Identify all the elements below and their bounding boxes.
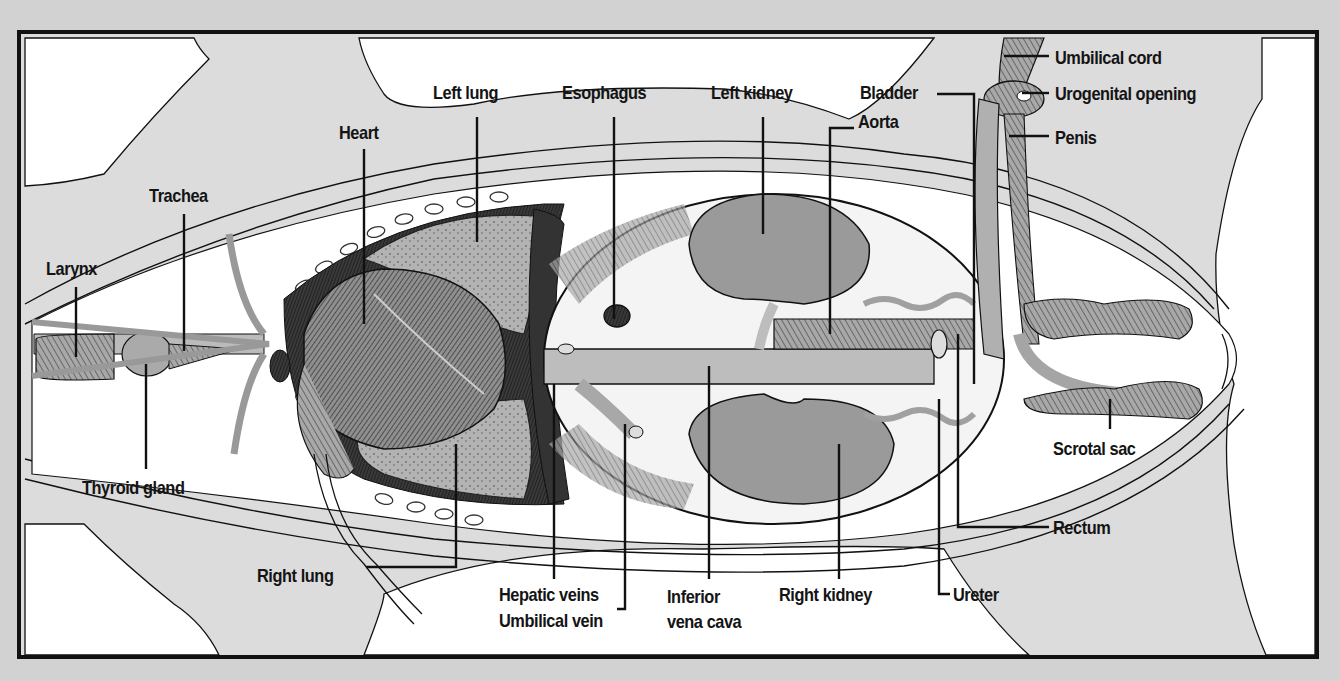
diagram-frame: Larynx Trachea Thyroid gland Heart Left … [17, 30, 1319, 659]
white-area-top-left [25, 38, 209, 186]
fetal-pig-illustration [21, 34, 1315, 655]
scrotal-sac-upper [1024, 299, 1192, 339]
label-bladder: Bladder [860, 82, 918, 104]
heart [304, 269, 505, 449]
label-hepatic-veins: Hepatic veins [499, 584, 599, 606]
label-penis: Penis [1055, 127, 1096, 149]
label-rectum: Rectum [1053, 517, 1110, 539]
esophagus [604, 305, 630, 327]
label-esophagus: Esophagus [562, 82, 646, 104]
label-scrotal-sac: Scrotal sac [1053, 438, 1135, 460]
label-urogenital-opening: Urogenital opening [1055, 83, 1196, 105]
label-right-kidney: Right kidney [779, 584, 872, 606]
inferior-vena-cava [544, 349, 934, 384]
white-area-bottom-left [25, 524, 219, 655]
label-larynx: Larynx [46, 258, 97, 280]
label-right-lung: Right lung [257, 565, 333, 587]
label-thyroid-gland: Thyroid gland [82, 477, 184, 499]
label-inferior-vena-cava: Inferior vena cava [667, 584, 741, 634]
label-trachea: Trachea [149, 185, 208, 207]
label-left-kidney: Left kidney [711, 82, 793, 104]
label-left-lung: Left lung [433, 82, 498, 104]
label-heart: Heart [339, 122, 379, 144]
white-area-top-middle [359, 38, 934, 119]
label-umbilical-cord: Umbilical cord [1055, 47, 1162, 69]
label-ureter: Ureter [953, 584, 999, 606]
label-umbilical-vein: Umbilical vein [499, 610, 603, 632]
label-aorta: Aorta [858, 111, 899, 133]
